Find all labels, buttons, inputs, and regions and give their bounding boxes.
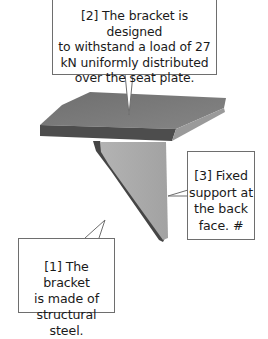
bracket-web: [93, 141, 168, 242]
callout-support-line: support at: [188, 185, 254, 202]
callout-load-line: over the seat plate.: [53, 70, 216, 86]
callout-support: [3] Fixed support at the back face. #: [187, 151, 255, 240]
callout-load: [2] The bracket is designed to withstand…: [52, 0, 217, 75]
callout-material: [1] The bracket is made of structural st…: [18, 238, 115, 313]
callout-material-line: [1] The bracket: [19, 259, 114, 291]
seat-plate: [40, 92, 226, 141]
callout-support-line: [3] Fixed: [188, 168, 254, 185]
callout-material-line: structural steel.: [19, 307, 114, 339]
callout-material-line: is made of: [19, 291, 114, 307]
callout-support-line: face. #: [188, 218, 254, 235]
callout-load-line: kN uniformly distributed: [53, 55, 216, 71]
callout-load-line: to withstand a load of 27: [53, 39, 216, 55]
callout-load-line: [2] The bracket is designed: [53, 8, 216, 39]
callout-support-line: the back: [188, 201, 254, 218]
